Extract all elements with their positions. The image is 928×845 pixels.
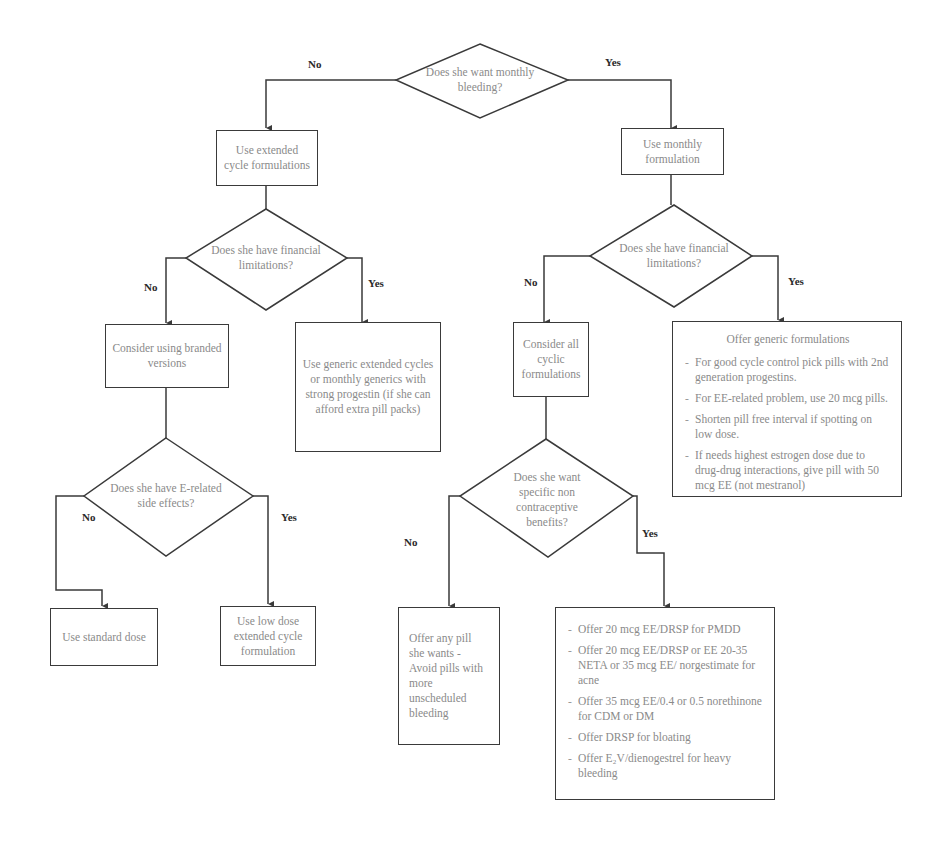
decision-e-related-side-effects: Does she have E-related side effects? bbox=[110, 478, 222, 514]
node-generic-formulations: Offer generic formulations For good cycl… bbox=[672, 321, 902, 497]
edge-label-d3-no: No bbox=[524, 276, 537, 288]
edge-label-d2-yes: Yes bbox=[368, 277, 384, 289]
list-item: Shorten pill free interval if spotting o… bbox=[685, 412, 891, 442]
list-item: For good cycle control pick pills with 2… bbox=[685, 355, 891, 385]
list-item: Offer E₂V/dienogestrel for heavy bleedin… bbox=[568, 751, 764, 781]
node-monthly-formulation: Use monthly formulation bbox=[621, 128, 724, 175]
decision-monthly-bleeding: Does she want monthly bleeding? bbox=[420, 62, 540, 98]
flowchart-canvas: Does she want monthly bleeding? Does she… bbox=[0, 0, 928, 845]
node-low-dose-extended: Use low dose extended cycle formulation bbox=[220, 606, 316, 666]
decision-financial-limitations-extended: Does she have financial limitations? bbox=[200, 240, 332, 276]
benefits-list: Offer 20 mcg EE/DRSP for PMDD Offer 20 m… bbox=[568, 622, 764, 781]
edge-label-d3-yes: Yes bbox=[788, 275, 804, 287]
node-branded-versions: Consider using branded versions bbox=[105, 324, 229, 388]
list-item: Offer DRSP for bloating bbox=[568, 730, 764, 745]
decision-non-contraceptive-benefits: Does she want specific non contraceptive… bbox=[500, 470, 594, 530]
list-item: Offer 20 mcg EE/DRSP for PMDD bbox=[568, 622, 764, 637]
decision-financial-limitations-monthly: Does she have financial limitations? bbox=[608, 238, 740, 274]
node-standard-dose: Use standard dose bbox=[50, 608, 158, 666]
edge-label-d4-yes: Yes bbox=[281, 511, 297, 523]
list-item: Offer 35 mcg EE/0.4 or 0.5 norethinone f… bbox=[568, 694, 764, 724]
generic-formulations-list: For good cycle control pick pills with 2… bbox=[685, 355, 891, 493]
node-any-pill: Offer any pill she wants - Avoid pills w… bbox=[398, 607, 500, 745]
list-item: For EE-related problem, use 20 mcg pills… bbox=[685, 391, 891, 406]
node-non-contraceptive-benefits: Offer 20 mcg EE/DRSP for PMDD Offer 20 m… bbox=[555, 607, 775, 800]
node-cyclic-formulations: Consider all cyclic formulations bbox=[513, 322, 589, 397]
list-item: Offer 20 mcg EE/DRSP or EE 20-35 NETA or… bbox=[568, 643, 764, 688]
edge-label-d4-no: No bbox=[82, 511, 95, 523]
list-item: If needs highest estrogen dose due to dr… bbox=[685, 448, 891, 493]
node-extended-cycle: Use extended cycle formulations bbox=[216, 130, 318, 186]
node-generic-extended: Use generic extended cycles or monthly g… bbox=[295, 322, 441, 452]
edge-label-d2-no: No bbox=[144, 281, 157, 293]
edge-label-d1-yes: Yes bbox=[605, 56, 621, 68]
edge-label-d5-yes: Yes bbox=[642, 527, 658, 539]
edge-label-d5-no: No bbox=[404, 536, 417, 548]
generic-formulations-title: Offer generic formulations bbox=[685, 332, 891, 347]
edge-label-d1-no: No bbox=[308, 58, 321, 70]
